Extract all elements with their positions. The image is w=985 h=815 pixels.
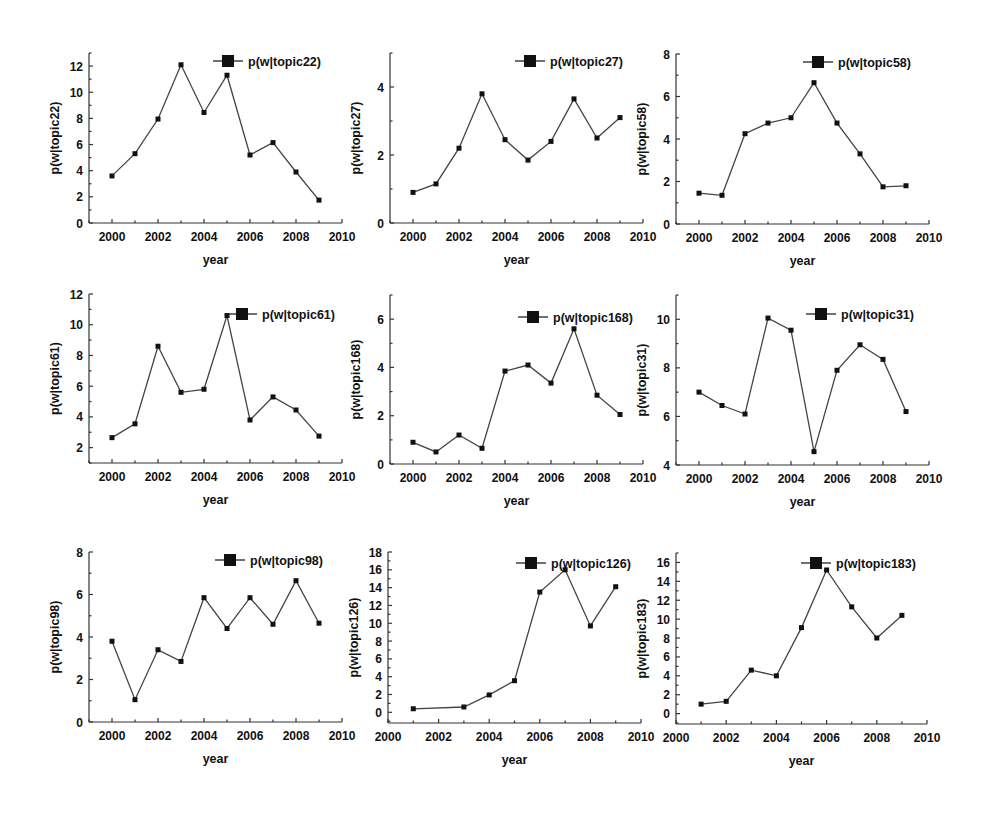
- data-point-marker: [294, 170, 299, 175]
- data-point-marker: [248, 153, 253, 158]
- data-point-marker: [294, 578, 299, 583]
- x-axis-label: year: [203, 493, 229, 507]
- x-tick-label: 2000: [400, 230, 427, 244]
- y-tick-label: 18: [369, 546, 383, 560]
- data-point-marker: [766, 121, 771, 126]
- data-point-marker: [595, 136, 600, 141]
- x-tick-label: 2002: [145, 230, 172, 244]
- y-tick-label: 4: [377, 81, 384, 95]
- legend: p(w|topic31): [806, 308, 914, 322]
- y-tick-label: 0: [663, 218, 670, 232]
- legend: p(w|topic22): [213, 55, 321, 69]
- legend-square-marker-icon: [525, 557, 537, 569]
- y-tick-label: 10: [657, 613, 671, 627]
- y-tick-label: 8: [663, 632, 670, 646]
- y-tick-label: 6: [663, 410, 670, 424]
- data-point-marker: [248, 417, 253, 422]
- y-axis-label: p(w|topic98): [48, 601, 62, 674]
- chart-panel-6: 20002002200420062008201046810yearp(w|top…: [635, 295, 943, 509]
- x-axis-label: year: [790, 254, 816, 268]
- data-point-marker: [724, 699, 729, 704]
- y-tick-label: 8: [375, 635, 382, 649]
- data-point-marker: [411, 706, 416, 711]
- x-tick-label: 2010: [329, 230, 356, 244]
- x-axis-label: year: [504, 494, 530, 508]
- y-tick-label: 2: [375, 688, 382, 702]
- x-axis-label: year: [504, 253, 530, 267]
- y-axis-label: p(w|topic27): [349, 102, 363, 175]
- y-tick-label: 10: [70, 318, 84, 332]
- y-tick-label: 12: [369, 599, 383, 613]
- x-tick-label: 2002: [446, 230, 473, 244]
- legend-square-marker-icon: [222, 55, 234, 67]
- y-tick-label: 4: [663, 669, 670, 683]
- x-axis-label: year: [203, 253, 229, 267]
- data-point-marker: [248, 595, 253, 600]
- data-point-marker: [881, 184, 886, 189]
- x-tick-label: 2008: [283, 729, 310, 743]
- data-point-marker: [133, 421, 138, 426]
- data-point-marker: [858, 342, 863, 347]
- chart-panel-9: 2000200220042006200820100246810121416yea…: [635, 553, 941, 768]
- legend: p(w|topic126): [516, 557, 631, 571]
- y-tick-label: 8: [663, 48, 670, 62]
- data-point-marker: [202, 110, 207, 115]
- data-series-line: [413, 570, 615, 709]
- y-tick-label: 4: [377, 361, 384, 375]
- y-tick-label: 6: [375, 652, 382, 666]
- data-point-marker: [766, 316, 771, 321]
- data-point-marker: [271, 622, 276, 627]
- y-tick-label: 4: [76, 164, 83, 178]
- y-axis-label: p(w|topic31): [635, 344, 649, 417]
- x-tick-label: 2004: [492, 230, 519, 244]
- x-tick-label: 2006: [237, 470, 264, 484]
- data-point-marker: [618, 115, 623, 120]
- y-axis-label: p(w|topic61): [48, 342, 62, 415]
- legend: p(w|topic27): [515, 55, 623, 69]
- data-point-marker: [613, 584, 618, 589]
- data-point-marker: [899, 613, 904, 618]
- data-point-marker: [774, 673, 779, 678]
- figure-grid: 200020022004200620082010024681012yearp(w…: [0, 0, 985, 815]
- data-point-marker: [202, 595, 207, 600]
- data-point-marker: [480, 446, 485, 451]
- x-tick-label: 2000: [99, 230, 126, 244]
- y-tick-label: 4: [76, 410, 83, 424]
- data-point-marker: [434, 181, 439, 186]
- x-tick-label: 2010: [628, 730, 655, 744]
- data-point-marker: [179, 659, 184, 664]
- legend: p(w|topic61): [227, 308, 335, 322]
- x-tick-label: 2008: [584, 230, 611, 244]
- legend-label: p(w|topic31): [841, 308, 914, 322]
- x-tick-label: 2002: [425, 730, 452, 744]
- data-point-marker: [743, 131, 748, 136]
- data-point-marker: [110, 173, 115, 178]
- x-tick-label: 2006: [237, 729, 264, 743]
- legend-square-marker-icon: [527, 311, 539, 323]
- x-tick-label: 2004: [778, 472, 805, 486]
- chart-panel-4: 20002002200420062008201024681012yearp(w|…: [48, 288, 356, 508]
- y-tick-label: 2: [377, 149, 384, 163]
- x-tick-label: 2004: [191, 729, 218, 743]
- data-point-marker: [225, 626, 230, 631]
- data-point-marker: [618, 412, 623, 417]
- data-point-marker: [720, 403, 725, 408]
- data-point-marker: [588, 623, 593, 628]
- data-series-line: [699, 318, 906, 452]
- y-tick-label: 4: [663, 133, 670, 147]
- data-point-marker: [294, 407, 299, 412]
- data-point-marker: [849, 604, 854, 609]
- legend-label: p(w|topic168): [553, 311, 633, 325]
- y-tick-label: 0: [375, 706, 382, 720]
- x-tick-label: 2010: [916, 231, 943, 245]
- x-tick-label: 2000: [686, 231, 713, 245]
- data-series-line: [699, 83, 906, 196]
- y-tick-label: 2: [76, 673, 83, 687]
- x-tick-label: 2010: [329, 470, 356, 484]
- data-point-marker: [461, 704, 466, 709]
- x-tick-label: 2000: [686, 472, 713, 486]
- y-axis-label: p(w|topic183): [635, 599, 649, 679]
- y-tick-label: 12: [657, 594, 671, 608]
- data-series-line: [413, 329, 620, 452]
- x-tick-label: 2008: [870, 472, 897, 486]
